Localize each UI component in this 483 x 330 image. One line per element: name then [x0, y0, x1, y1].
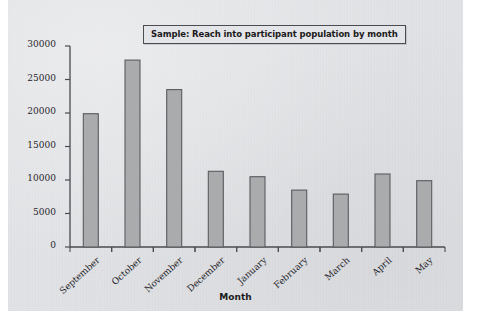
bar: [83, 114, 98, 247]
bar: [167, 90, 182, 247]
page-canvas: Sample: Reach into participant populatio…: [0, 0, 483, 330]
bar-chart: Sample: Reach into participant populatio…: [8, 0, 463, 311]
chart-title-box: Sample: Reach into participant populatio…: [143, 25, 406, 44]
chart-title: Sample: Reach into participant populatio…: [151, 29, 398, 39]
y-tick-label: 20000: [12, 106, 56, 116]
bar: [375, 174, 390, 247]
y-axis-ticks: [65, 46, 70, 247]
bar: [417, 181, 432, 247]
bar: [250, 177, 265, 247]
y-tick-label: 10000: [12, 173, 56, 183]
x-axis-ticks: [70, 247, 445, 252]
x-axis-title: Month: [8, 292, 463, 302]
y-tick-label: 5000: [12, 207, 56, 217]
bar: [333, 194, 348, 247]
y-tick-label: 15000: [12, 140, 56, 150]
y-tick-label: 30000: [12, 39, 56, 49]
y-tick-label: 25000: [12, 73, 56, 83]
y-tick-label: 0: [12, 240, 56, 250]
bar: [125, 60, 140, 247]
bar: [292, 190, 307, 247]
chart-svg: [8, 0, 463, 311]
bar-series: [83, 60, 431, 247]
bar: [208, 171, 223, 247]
